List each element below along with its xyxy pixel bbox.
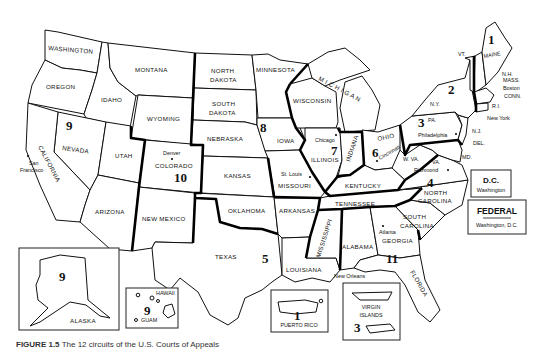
label-texas: TEXAS xyxy=(215,253,237,260)
label-south-carolina-2: CAROLINA xyxy=(400,222,435,229)
label-nebraska: NEBRASKA xyxy=(207,135,244,142)
circuit-number-10: 10 xyxy=(174,170,187,185)
label-north-dakota-1: NORTH xyxy=(211,67,234,74)
label-arizona: ARIZONA xyxy=(95,208,125,215)
label-montana: MONTANA xyxy=(135,66,168,73)
circuit-number-4: 4 xyxy=(427,175,434,190)
dc-circuit-box: D.C. Washington xyxy=(471,170,511,197)
label-north-carolina-1: NORTH xyxy=(424,189,447,196)
label-south-carolina-1: SOUTH xyxy=(403,213,426,220)
state-michigan-lower xyxy=(340,76,380,132)
label-alaska: ALASKA xyxy=(70,317,96,324)
dc-box-subtitle: Washington xyxy=(477,187,505,193)
label-kansas: KANSAS xyxy=(224,172,251,179)
city-san-francisco-1: San xyxy=(29,160,39,166)
label-arkansas: ARKANSAS xyxy=(279,207,315,214)
label-maryland: MD. xyxy=(462,154,472,160)
label-louisiana: LOUISIANA xyxy=(286,266,322,273)
circuit-number-1: 1 xyxy=(488,32,495,47)
label-alabama: ALABAMA xyxy=(342,243,374,250)
label-new-mexico: NEW MEXICO xyxy=(142,215,186,222)
city-philadelphia: Philadelphia xyxy=(418,132,447,138)
federal-box-title: FEDERAL xyxy=(477,206,517,216)
figure-number: FIGURE 1.5 xyxy=(16,340,60,349)
federal-circuit-box: FEDERAL Washington, D.C. xyxy=(468,200,526,234)
label-utah: UTAH xyxy=(115,152,133,159)
label-missouri: MISSOURI xyxy=(278,182,311,189)
label-north-carolina-2: CAROLINA xyxy=(418,197,453,204)
label-south-dakota-1: SOUTH xyxy=(212,100,235,107)
city-new-orleans: New Orleans xyxy=(334,273,365,279)
label-georgia: GEORGIA xyxy=(382,237,414,244)
city-atlanta: Atlanta xyxy=(379,229,396,235)
circuit-number-2: 2 xyxy=(448,82,455,97)
label-tennessee: TENNESSEE xyxy=(335,200,375,207)
label-oregon: OREGON xyxy=(46,83,75,90)
label-south-dakota-2: DAKOTA xyxy=(209,109,236,116)
label-iowa: IOWA xyxy=(277,137,295,144)
label-wyoming: WYOMING xyxy=(147,115,180,122)
label-west-virginia: W. VA. xyxy=(403,156,419,162)
label-new-jersey: N.J. xyxy=(472,128,482,134)
dc-box-title: D.C. xyxy=(483,176,499,185)
state-connecticut xyxy=(476,103,488,112)
circuit-number-7: 7 xyxy=(331,143,338,158)
label-kentucky: KENTUCKY xyxy=(345,182,381,189)
label-minnesota: MINNESOTA xyxy=(256,66,296,73)
label-connecticut: CONN. xyxy=(504,93,521,99)
label-virgin-islands-1: VIRGIN xyxy=(362,304,381,310)
label-rhode-island: R.I. xyxy=(492,103,500,109)
label-vermont: VT. xyxy=(458,51,466,57)
city-st-louis: St. Louis xyxy=(281,171,302,177)
label-hawaii: HAWAII xyxy=(156,290,175,296)
circuit-number-5: 5 xyxy=(262,251,269,266)
circuit-number-8: 8 xyxy=(260,120,267,135)
circuit-number-9: 9 xyxy=(66,118,73,133)
circuit-number-6: 6 xyxy=(372,145,379,160)
us-circuits-map: D.C. Washington FEDERAL Washington, D.C.… xyxy=(0,0,543,352)
city-denver: Denver xyxy=(163,150,181,156)
label-massachusetts: MASS. xyxy=(503,77,520,83)
figure-caption: FIGURE 1.5 The 12 circuits of the U.S. C… xyxy=(16,340,219,349)
circuit-number-9-hawaii: 9 xyxy=(144,303,151,318)
circuit-number-3: 3 xyxy=(418,115,425,130)
label-colorado: COLORADO xyxy=(155,162,193,169)
circuit-number-11: 11 xyxy=(386,251,398,266)
label-north-dakota-2: DAKOTA xyxy=(210,76,237,83)
city-richmond: Richmond xyxy=(414,167,438,173)
circuit-number-3-virgin-islands: 3 xyxy=(354,320,361,335)
label-wisconsin: WISCONSIN xyxy=(293,97,331,104)
label-virgin-islands-2: ISLANDS xyxy=(359,312,382,318)
label-idaho: IDAHO xyxy=(101,96,122,103)
label-delaware: DEL. xyxy=(473,140,485,146)
city-boston: Boston xyxy=(503,85,520,91)
city-new-york: New York xyxy=(487,115,510,121)
state-new-york xyxy=(412,60,476,118)
city-san-francisco-2: Francisco xyxy=(20,167,43,173)
label-virginia: VA. xyxy=(432,159,440,165)
label-new-york: N.Y. xyxy=(430,101,440,107)
label-oklahoma: OKLAHOMA xyxy=(228,207,266,214)
figure-caption-text: The 12 circuits of the U.S. Courts of Ap… xyxy=(62,340,219,349)
circuit-number-9-alaska: 9 xyxy=(59,269,66,284)
inset-alaska xyxy=(19,248,119,330)
label-pennsylvania: PA. xyxy=(428,117,436,123)
circuit-number-1-puerto-rico: 1 xyxy=(294,308,301,323)
federal-box-subtitle: Washington, D.C. xyxy=(476,222,518,228)
